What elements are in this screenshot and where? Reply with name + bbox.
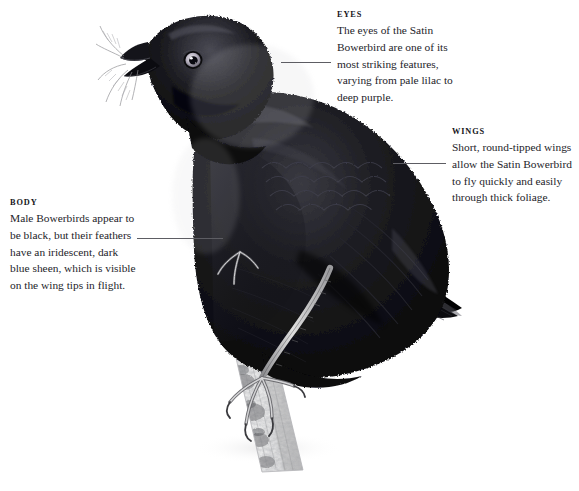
callout-wings-heading: WINGS	[452, 128, 579, 136]
callout-wings: WINGS Short, round-tipped wings allow th…	[452, 128, 579, 206]
callout-wings-body: Short, round-tipped wings allow the Sati…	[452, 139, 579, 206]
callout-eyes-body: The eyes of the Satin Bowerbird are one …	[337, 22, 473, 106]
leader-line-body	[137, 238, 223, 239]
illustration-plate: EYES The eyes of the Satin Bowerbird are…	[0, 0, 579, 491]
leader-line-eyes	[281, 62, 331, 63]
callout-body: BODY Male Bowerbirds appear to be black,…	[10, 199, 146, 294]
callout-body-heading: BODY	[10, 199, 146, 207]
callout-body-body: Male Bowerbirds appear to be black, but …	[10, 210, 146, 294]
leader-line-wings	[393, 163, 446, 164]
callout-eyes-heading: EYES	[337, 11, 473, 19]
callout-eyes: EYES The eyes of the Satin Bowerbird are…	[337, 11, 473, 106]
